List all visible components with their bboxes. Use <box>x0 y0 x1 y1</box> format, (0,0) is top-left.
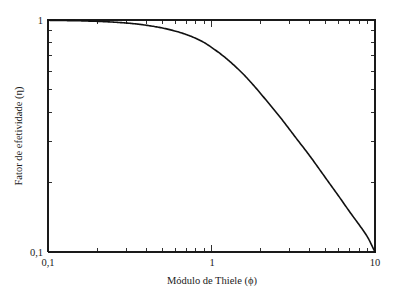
x-axis-title: Módulo de Thiele (ϕ) <box>167 275 258 287</box>
x-tick-label-1: 1 <box>209 257 214 268</box>
x-tick-label-2: 10 <box>370 257 381 268</box>
y-tick-label-0: 0,1 <box>30 247 43 258</box>
y-tick-label-1: 1 <box>38 15 43 26</box>
chart-figure: 0,1 1 10 1 0,1 Módulo de Thiele (ϕ) Fato… <box>0 0 393 297</box>
y-axis-title: Fator de efetividade (η) <box>13 86 25 186</box>
thiele-modulus-plot: 0,1 1 10 1 0,1 Módulo de Thiele (ϕ) Fato… <box>0 0 393 297</box>
x-tick-label-0: 0,1 <box>41 257 54 268</box>
